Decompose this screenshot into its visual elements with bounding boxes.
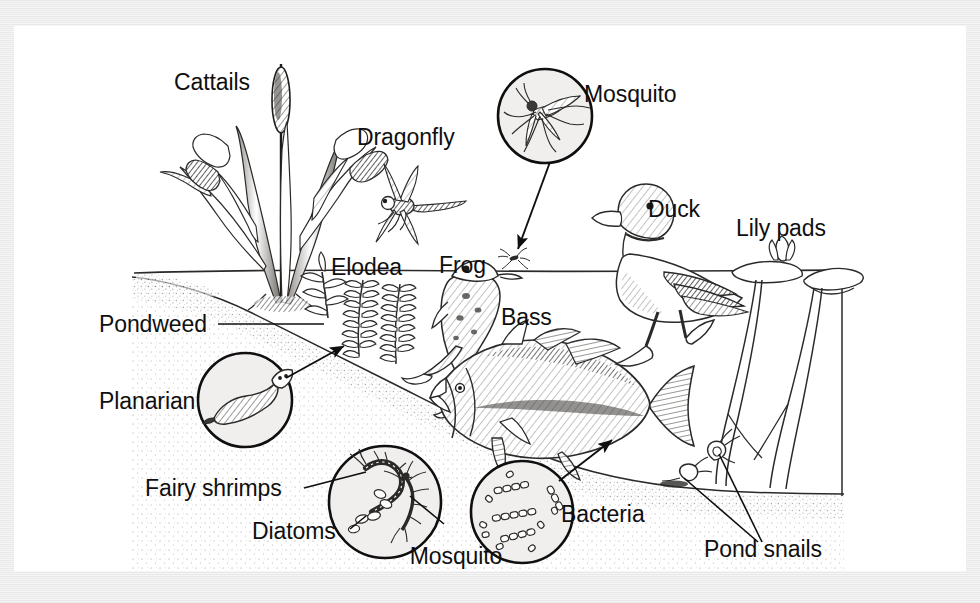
pond-snail-lower [660,457,712,487]
label-diatoms: Diatoms [252,519,336,545]
label-mosquito-larvas-line1: Mosquito [410,543,503,569]
label-pondweed: Pondweed [99,312,207,338]
elodea-leaflets [342,281,416,362]
label-lily-pads: Lily pads [736,216,826,242]
figure-root: Cattails Dragonfly Mosquito Duck Lily pa… [0,0,980,603]
label-dragonfly: Dragonfly [357,125,455,151]
label-mosquito: Mosquito [584,82,677,108]
label-mosquito-larvas: Mosquito larvas [372,519,496,571]
label-fairy-shrimps: Fairy shrimps [145,476,282,502]
label-cattails: Cattails [174,70,250,96]
label-elodea: Elodea [331,255,402,281]
mosquito-magnifier [498,69,592,249]
mosquito-pointer-arrow [518,162,550,249]
label-pond-snails: Pond snails [704,537,822,563]
label-planarian: Planarian [99,389,195,415]
label-duck: Duck [648,197,700,223]
lily-pads-illustration [716,236,863,489]
mosquito-in-air-illustration [498,248,530,269]
label-bass: Bass [501,305,552,331]
label-bacteria: Bacteria [561,502,645,528]
pond-diagram-plate: Cattails Dragonfly Mosquito Duck Lily pa… [14,26,966,571]
label-frog: Frog [439,253,486,279]
elodea-illustration [342,280,416,364]
dragonfly-illustration [376,164,466,244]
